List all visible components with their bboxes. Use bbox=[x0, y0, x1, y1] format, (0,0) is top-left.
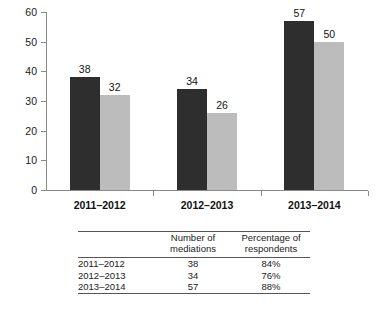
x-axis-tick bbox=[261, 191, 262, 196]
header-mediations-line2: mediations bbox=[154, 243, 232, 254]
bar-respondents bbox=[314, 42, 344, 190]
bar-value-label: 50 bbox=[323, 29, 335, 40]
bar-value-label: 57 bbox=[293, 8, 305, 19]
table-cell-percentage: 88% bbox=[232, 281, 310, 293]
table-header-row: Number of mediations Percentage of respo… bbox=[78, 232, 310, 255]
header-mediations-line1: Number of bbox=[154, 232, 232, 243]
table-cell-percentage: 84% bbox=[232, 258, 310, 270]
header-percentage-line1: Percentage of bbox=[232, 232, 310, 243]
y-axis-tick-label: 0 bbox=[5, 185, 37, 196]
table-header-corner bbox=[78, 232, 154, 255]
y-axis-tick-label: 20 bbox=[5, 126, 37, 137]
bar-mediations bbox=[177, 89, 207, 190]
header-percentage-line2: respondents bbox=[232, 243, 310, 254]
bar-value-label: 34 bbox=[186, 76, 198, 87]
y-axis-tick-label: 40 bbox=[5, 66, 37, 77]
y-axis-tick-label: 50 bbox=[5, 37, 37, 48]
table-cell-year: 2013–2014 bbox=[78, 281, 154, 293]
plot-area: 383234265750 bbox=[46, 12, 368, 190]
x-axis-category-label: 2012–2013 bbox=[181, 199, 234, 211]
table-row: 2013–20145788% bbox=[78, 281, 310, 293]
bar-value-label: 26 bbox=[216, 100, 228, 111]
summary-table: Number of mediations Percentage of respo… bbox=[78, 231, 310, 294]
y-axis-tick-label: 10 bbox=[5, 155, 37, 166]
table-header-mediations: Number of mediations bbox=[154, 232, 232, 255]
y-axis-tick-label: 30 bbox=[5, 96, 37, 107]
x-axis-category-label: 2013–2014 bbox=[288, 199, 341, 211]
table-header-percentage: Percentage of respondents bbox=[232, 232, 310, 255]
bar-respondents bbox=[100, 95, 130, 190]
bar-respondents bbox=[207, 113, 237, 190]
table-row: 2011–20123884% bbox=[78, 258, 310, 270]
bar-mediations bbox=[70, 77, 100, 190]
bar-chart-figure: 0102030405060 2011–20122012–20132013–201… bbox=[0, 0, 380, 216]
bar-value-label: 32 bbox=[109, 82, 121, 93]
table-cell-mediations: 38 bbox=[154, 258, 232, 270]
table-row: 2012–20133476% bbox=[78, 270, 310, 282]
table-cell-mediations: 34 bbox=[154, 270, 232, 282]
x-axis-tick bbox=[368, 191, 369, 196]
y-axis-tick bbox=[41, 190, 46, 191]
bar-value-label: 38 bbox=[79, 64, 91, 75]
table-cell-percentage: 76% bbox=[232, 270, 310, 282]
y-axis-tick-label: 60 bbox=[5, 7, 37, 18]
x-axis-line bbox=[46, 190, 368, 191]
table-cell-year: 2012–2013 bbox=[78, 270, 154, 282]
x-axis-tick bbox=[153, 191, 154, 196]
table-cell-year: 2011–2012 bbox=[78, 258, 154, 270]
x-axis-category-label: 2011–2012 bbox=[74, 199, 126, 211]
bar-mediations bbox=[284, 21, 314, 190]
table-cell-mediations: 57 bbox=[154, 281, 232, 293]
